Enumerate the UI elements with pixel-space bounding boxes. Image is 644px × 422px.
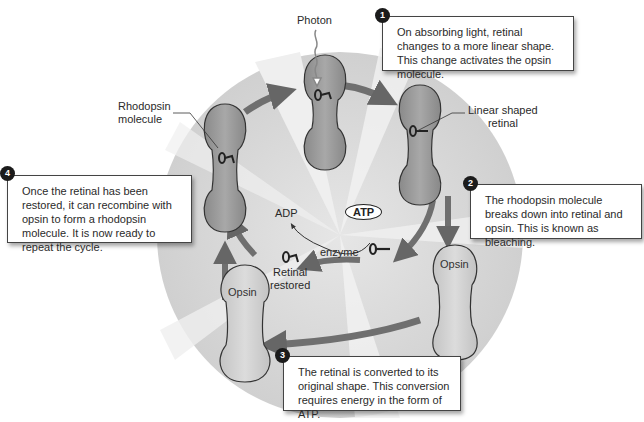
step-3-callout: The retinal is converted to its original… [283, 356, 461, 411]
rhodopsin-cycle-diagram: Photon Rhodopsin molecule Linear shaped … [0, 0, 644, 422]
opsin-left-label: Opsin [228, 286, 257, 298]
atp-label: ATP [345, 204, 382, 220]
step-4-badge: 4 [0, 166, 15, 181]
step-4-text: Once the retinal has been restored, it c… [22, 185, 172, 253]
step-2-callout: The rhodopsin molecule breaks down into … [470, 184, 642, 239]
step-1-callout: On absorbing light, retinal changes to a… [382, 16, 574, 71]
opsin-right-label: Opsin [440, 258, 469, 270]
rhodopsin-label-line2: molecule [118, 113, 171, 126]
linear-retinal-label-line1: Linear shaped [468, 104, 538, 117]
opsin-molecule-left [220, 265, 270, 382]
rhodopsin-label: Rhodopsin molecule [118, 100, 171, 126]
step-4-callout: Once the retinal has been restored, it c… [7, 175, 192, 243]
step-3-badge: 3 [275, 348, 290, 363]
linear-retinal-label-line2: retinal [468, 117, 538, 130]
step-1-badge: 1 [375, 8, 390, 23]
photon-label: Photon [297, 14, 332, 27]
adp-label: ADP [275, 207, 298, 220]
step-2-badge: 2 [463, 176, 478, 191]
rhodopsin-label-line1: Rhodopsin [118, 100, 171, 113]
enzyme-label: enzyme [320, 246, 359, 259]
retinal-restored-line2: restored [270, 279, 310, 292]
retinal-restored-label: Retinal restored [270, 266, 310, 292]
retinal-restored-line1: Retinal [270, 266, 310, 279]
linear-retinal-label: Linear shaped retinal [468, 104, 538, 130]
